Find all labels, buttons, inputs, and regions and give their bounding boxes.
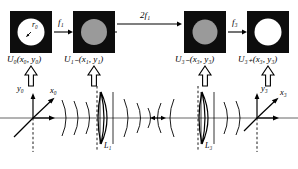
center-double-arrow bbox=[150, 116, 166, 120]
distance-label-f3: f₃ bbox=[232, 18, 238, 27]
distance-label-2f1: 2f₁ bbox=[140, 11, 150, 20]
plane-square-3-minus bbox=[184, 11, 226, 53]
aperture-circle-1 bbox=[81, 19, 107, 45]
axes-right bbox=[244, 93, 279, 152]
lens-label-1: L₁ bbox=[104, 142, 111, 150]
connector-arrow-1 bbox=[88, 66, 100, 86]
plane-label-0: U₀(x₀, y₀) bbox=[7, 55, 41, 64]
axis-label-x3: x₃ bbox=[280, 88, 287, 97]
diagram-canvas bbox=[0, 0, 298, 169]
plane-label-3-plus: U₃₊(x₃, y₃) bbox=[238, 55, 277, 64]
axes-left bbox=[14, 93, 55, 152]
axis-label-x0: x₀ bbox=[50, 86, 57, 95]
distance-arrow-f1 bbox=[54, 30, 73, 35]
aperture-radius-label: r₀ bbox=[32, 21, 38, 29]
connector-arrow-2 bbox=[199, 66, 211, 86]
distance-label-f1: f₁ bbox=[58, 18, 64, 27]
plane-square-3-plus bbox=[247, 11, 289, 53]
plane-label-3-minus: U₃₋(x₃, y₃) bbox=[175, 55, 214, 64]
plane-square-0 bbox=[10, 11, 52, 53]
lens-label-3: L₃ bbox=[205, 142, 212, 150]
plane-label-1-minus: U₁₋(x₁, y₁) bbox=[64, 55, 103, 64]
aperture-circle-3 bbox=[255, 19, 282, 46]
distance-arrow-2f1 bbox=[117, 22, 182, 27]
connector-arrow-0 bbox=[25, 66, 37, 86]
plane-square-1-minus bbox=[73, 11, 115, 53]
axis-label-y0: y₀ bbox=[17, 84, 24, 93]
distance-arrow-f3 bbox=[228, 30, 247, 35]
optical-diagram: U₀(x₀, y₀) U₁₋(x₁, y₁) U₃₋(x₃, y₃) U₃₊(x… bbox=[0, 0, 298, 169]
aperture-circle-2 bbox=[193, 20, 218, 45]
axis-label-y3: y₃ bbox=[261, 84, 268, 93]
